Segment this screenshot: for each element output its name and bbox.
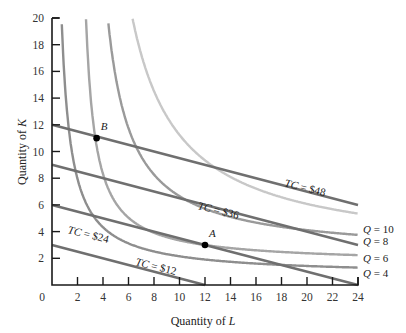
x-tick-label: 4 [100,291,106,303]
x-tick-label: 6 [126,291,132,303]
point-label-a: A [208,227,216,239]
x-tick-label: 8 [151,291,157,303]
isoquant-label-2: Q = 8 [363,235,389,247]
y-axis-title: Quantity of K [15,118,29,185]
isoquant-4 [133,19,358,214]
x-tick-label: 20 [301,291,313,303]
isoquant-label-4: Q = 4 [363,267,389,279]
y-tick-label: 12 [33,119,45,131]
isocost-label-3: TC = $36 [197,199,241,221]
x-tick-label: 12 [199,291,211,303]
y-tick-label: 20 [33,12,45,24]
isoquant-label-1: Q = 10 [363,223,394,235]
y-tick-label: 14 [33,92,45,104]
y-tick-label: 16 [33,65,45,77]
y-tick-label: 18 [33,39,45,51]
point-b [93,135,100,142]
x-tick-label: 16 [250,291,262,303]
y-axis-ticks: 2468101214161820 [33,12,61,264]
isocost-label-2: TC = $24 [67,223,111,245]
y-tick-label: 2 [38,252,44,264]
x-tick-label: 24 [352,291,364,303]
x-axis-ticks: 24681012141618202224 [75,277,364,303]
isoquant-label-3: Q = 6 [363,252,389,264]
y-tick-label: 6 [38,199,44,211]
y-tick-label: 4 [38,226,44,238]
point-label-b: B [101,120,108,132]
isocost-label-4: TC = $48 [284,177,328,199]
x-tick-label: 18 [276,291,288,303]
x-tick-label: 2 [75,291,81,303]
isoquant-3 [108,23,357,235]
point-a [202,242,209,249]
curve-labels: TC = $12TC = $24TC = $36TC = $48Q = 10Q … [67,177,394,279]
x-tick-label: 22 [327,291,339,303]
isoquant-2 [86,19,358,255]
x-tick-label: 14 [225,291,237,303]
x-axis-title: Quantity of L [171,314,236,328]
isoquant-isocost-chart: 24681012141618202224 2468101214161820 AB… [0,0,406,333]
origin-label: 0 [39,291,45,303]
x-tick-label: 10 [174,291,186,303]
y-tick-label: 10 [33,146,45,158]
y-tick-label: 8 [38,172,44,184]
isocost-label-1: TC = $12 [134,255,177,277]
